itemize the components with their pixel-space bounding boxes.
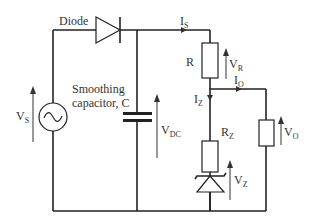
- vdc-arrow-icon: [154, 94, 160, 158]
- r-label: R: [186, 55, 194, 69]
- vdc-label: VDC: [161, 123, 181, 139]
- diode-label: Diode: [59, 14, 88, 28]
- vr-label: VR: [229, 57, 244, 73]
- smoothing-label-line2: capacitor, C: [72, 96, 130, 110]
- vo-label: VO: [284, 125, 299, 141]
- zener-diode-icon: [195, 173, 226, 211]
- ac-source-icon: [39, 103, 67, 131]
- series-resistor-icon: [202, 43, 218, 78]
- vz-arrow-icon: [227, 160, 233, 200]
- is-label: IS: [180, 14, 188, 30]
- zener-resistor-icon: [202, 141, 218, 172]
- vs-arrow-icon: [30, 86, 36, 142]
- vz-label: VZ: [234, 173, 248, 189]
- diode-icon: [96, 17, 120, 43]
- vs-label: VS: [16, 109, 29, 125]
- load-resistor-icon: [259, 120, 274, 146]
- iz-label: IZ: [194, 92, 203, 108]
- smoothing-label-line1: Smoothing: [72, 82, 125, 96]
- circuit-diagram: Diode Smoothing capacitor, C VS VDC IS R…: [0, 0, 316, 224]
- capacitor-icon: [123, 112, 152, 122]
- io-label: IO: [234, 73, 244, 89]
- iz-arrow-icon: [207, 95, 213, 101]
- rz-label: RZ: [221, 125, 234, 141]
